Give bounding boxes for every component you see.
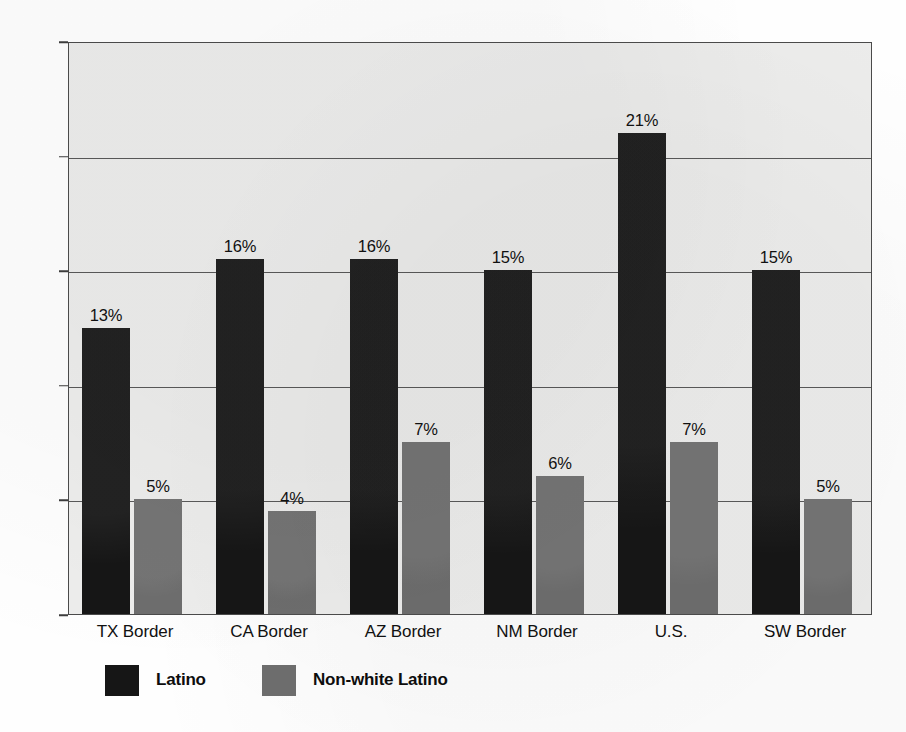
y-axis-tick-mark xyxy=(59,500,68,502)
black-square-icon xyxy=(105,665,139,696)
bar-value-label: 5% xyxy=(816,477,839,496)
y-axis-tick-mark xyxy=(59,270,68,272)
gridline xyxy=(69,501,871,502)
x-axis-label: TX Border xyxy=(97,622,174,642)
gray-square-icon xyxy=(262,665,296,696)
legend-label: Latino xyxy=(156,670,206,690)
gridline xyxy=(69,387,871,388)
bar-nonwhite-latino xyxy=(804,499,852,614)
legend-label: Non-white Latino xyxy=(313,670,448,690)
plot-area: 13%5%16%4%16%7%15%6%21%7%15%5% xyxy=(68,42,872,615)
bar-latino xyxy=(82,328,130,615)
bar-value-label: 7% xyxy=(682,420,705,439)
bar-value-label: 7% xyxy=(414,420,437,439)
x-axis-label: U.S. xyxy=(655,622,688,642)
chart-legend: LatinoNon-white Latino xyxy=(0,663,906,707)
bar-value-label: 4% xyxy=(280,489,303,508)
y-axis-tick-mark xyxy=(59,156,68,158)
gridline xyxy=(69,272,871,273)
legend-item: Latino xyxy=(105,663,206,697)
bar-latino xyxy=(752,270,800,614)
bar-value-label: 16% xyxy=(224,237,256,256)
bar-nonwhite-latino xyxy=(134,499,182,614)
bar-value-label: 5% xyxy=(146,477,169,496)
legend-item: Non-white Latino xyxy=(262,663,448,697)
bar-value-label: 6% xyxy=(548,454,571,473)
y-axis-tick-mark xyxy=(59,385,68,387)
x-axis-label: SW Border xyxy=(764,622,846,642)
bar-value-label: 13% xyxy=(90,306,122,325)
bar-value-label: 15% xyxy=(760,248,792,267)
x-axis-label: NM Border xyxy=(496,622,577,642)
x-axis-label: CA Border xyxy=(230,622,308,642)
bar-nonwhite-latino xyxy=(268,511,316,614)
bar-latino xyxy=(350,259,398,614)
bar-latino xyxy=(484,270,532,614)
bar-latino xyxy=(216,259,264,614)
bar-value-label: 15% xyxy=(492,248,524,267)
bar-latino xyxy=(618,133,666,614)
bar-value-label: 16% xyxy=(358,237,390,256)
gridline xyxy=(69,158,871,159)
bar-nonwhite-latino xyxy=(536,476,584,614)
chart-page: 0%5%10%15%20%25% 13%5%16%4%16%7%15%6%21%… xyxy=(0,0,906,732)
bar-nonwhite-latino xyxy=(402,442,450,614)
y-axis-tick-mark xyxy=(59,41,68,43)
bar-nonwhite-latino xyxy=(670,442,718,614)
x-axis-label: AZ Border xyxy=(365,622,442,642)
y-axis-tick-mark xyxy=(59,614,68,616)
bar-value-label: 21% xyxy=(626,111,658,130)
